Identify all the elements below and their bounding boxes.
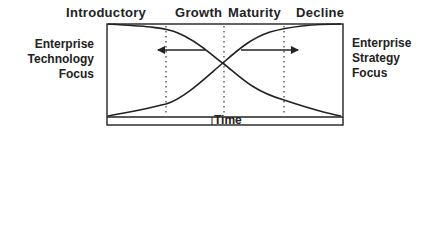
time-axis-label: Time	[214, 113, 242, 127]
